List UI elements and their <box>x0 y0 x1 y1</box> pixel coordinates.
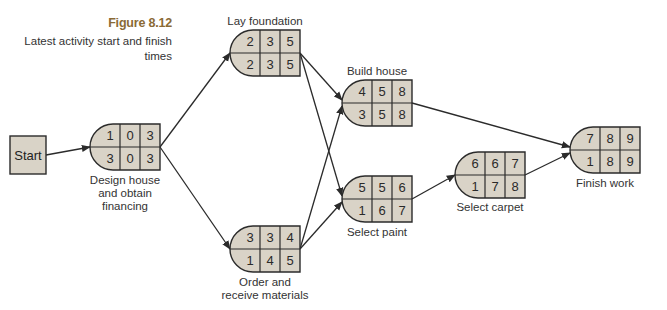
node-label-design: Design houseand obtainfinancing <box>60 174 190 213</box>
edge-paint-to-carpet <box>412 175 455 199</box>
node-paint-top-cell-2: 6 <box>398 180 405 195</box>
node-label-line: Order and <box>200 276 330 289</box>
node-finish: 789189 <box>570 127 640 173</box>
node-design-top-cell-0: 1 <box>106 128 113 143</box>
start-node: Start <box>10 136 46 174</box>
node-house-top-cell-1: 5 <box>378 84 385 99</box>
node-paint-top-cell-1: 5 <box>378 180 385 195</box>
node-design-bottom-cell-0: 3 <box>106 151 113 166</box>
node-paint-bottom-cell-1: 6 <box>378 203 385 218</box>
node-materials-bottom-cell-1: 4 <box>266 253 273 268</box>
node-carpet-top-cell-0: 6 <box>471 156 478 171</box>
node-materials-top-cell-2: 4 <box>286 230 293 245</box>
node-materials-top-cell-1: 3 <box>266 230 273 245</box>
node-paint-bottom-cell-2: 7 <box>398 203 405 218</box>
node-foundation-top-cell-2: 5 <box>286 34 293 49</box>
node-label-line: Select paint <box>312 226 442 239</box>
node-house-bottom-cell-0: 3 <box>358 107 365 122</box>
node-label-materials: Order andreceive materials <box>200 276 330 302</box>
node-carpet-bottom-cell-1: 7 <box>491 179 498 194</box>
node-label-line: receive materials <box>200 289 330 302</box>
node-label-line: Build house <box>312 65 442 78</box>
node-materials-top-cell-0: 3 <box>246 230 253 245</box>
node-label-paint: Select paint <box>312 226 442 239</box>
activity-network-diagram: Start 1033032352353341454583585561676671… <box>0 0 667 310</box>
node-carpet-top-cell-1: 6 <box>491 156 498 171</box>
node-label-line: Finish work <box>540 177 667 190</box>
node-carpet-top-cell-2: 7 <box>511 156 518 171</box>
node-finish-top-cell-0: 7 <box>586 131 593 146</box>
node-foundation: 235235 <box>230 30 300 76</box>
node-foundation-bottom-cell-1: 3 <box>266 57 273 72</box>
node-design: 103303 <box>90 124 160 170</box>
node-label-line: Design house <box>60 174 190 187</box>
node-carpet-bottom-cell-2: 8 <box>511 179 518 194</box>
node-house-top-cell-0: 4 <box>358 84 365 99</box>
node-house: 458358 <box>342 80 412 126</box>
edge-house-to-finish <box>412 103 570 147</box>
node-label-line: financing <box>60 200 190 213</box>
node-design-bottom-cell-1: 0 <box>126 151 133 166</box>
node-finish-bottom-cell-0: 1 <box>586 154 593 169</box>
node-design-top-cell-1: 0 <box>126 128 133 143</box>
node-carpet: 667178 <box>455 152 525 198</box>
node-materials-bottom-cell-2: 5 <box>286 253 293 268</box>
node-materials-bottom-cell-0: 1 <box>246 253 253 268</box>
node-design-bottom-cell-2: 3 <box>146 151 153 166</box>
node-house-top-cell-2: 8 <box>398 84 405 99</box>
node-finish-bottom-cell-2: 9 <box>626 154 633 169</box>
node-house-bottom-cell-2: 8 <box>398 107 405 122</box>
node-design-top-cell-2: 3 <box>146 128 153 143</box>
node-foundation-bottom-cell-2: 5 <box>286 57 293 72</box>
node-paint: 556167 <box>342 176 412 222</box>
node-finish-top-cell-2: 9 <box>626 131 633 146</box>
node-foundation-top-cell-0: 2 <box>246 34 253 49</box>
node-finish-bottom-cell-1: 8 <box>606 154 613 169</box>
node-paint-bottom-cell-0: 1 <box>358 203 365 218</box>
node-foundation-bottom-cell-0: 2 <box>246 57 253 72</box>
node-label-line: and obtain <box>60 187 190 200</box>
start-label: Start <box>14 148 42 163</box>
edge-design-to-foundation <box>160 53 230 147</box>
node-house-bottom-cell-1: 5 <box>378 107 385 122</box>
node-carpet-bottom-cell-0: 1 <box>471 179 478 194</box>
node-label-house: Build house <box>312 65 442 78</box>
node-label-line: Select carpet <box>425 201 555 214</box>
node-materials: 334145 <box>230 226 300 272</box>
edge-carpet-to-finish <box>525 153 570 175</box>
node-paint-top-cell-0: 5 <box>358 180 365 195</box>
node-label-line: Lay foundation <box>200 15 330 28</box>
node-finish-top-cell-1: 8 <box>606 131 613 146</box>
node-label-carpet: Select carpet <box>425 201 555 214</box>
node-label-finish: Finish work <box>540 177 667 190</box>
edge-start-to-design <box>46 147 90 155</box>
node-foundation-top-cell-1: 3 <box>266 34 273 49</box>
node-label-foundation: Lay foundation <box>200 15 330 28</box>
